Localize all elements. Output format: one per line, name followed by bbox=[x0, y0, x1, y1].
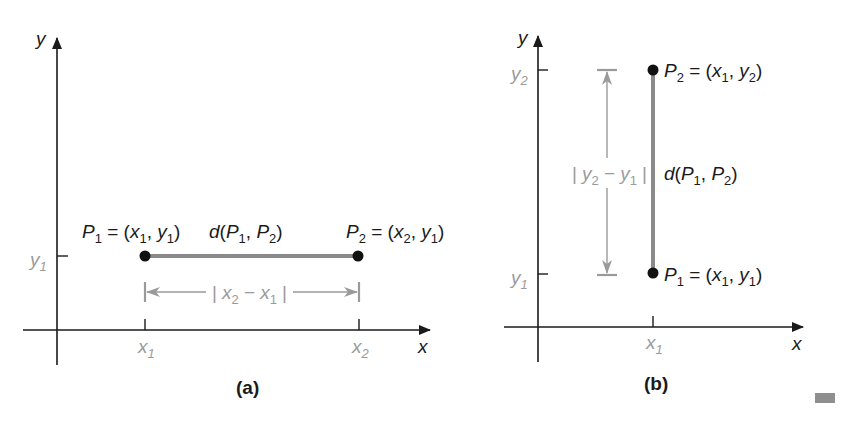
distance-label: d(P1, P2) bbox=[209, 221, 283, 246]
x2-tick-label: x2 bbox=[351, 336, 370, 361]
distance-formula-diagram: y x y1 x1 x2 P1 = (x1, y1) d(P1, P2) P2 … bbox=[0, 0, 843, 431]
y1-tick-label: y1 bbox=[509, 267, 528, 292]
point-p1 bbox=[648, 268, 659, 279]
panel-a-caption: (a) bbox=[236, 377, 259, 398]
gray-marker-block bbox=[815, 393, 835, 403]
y-difference-label: |y2 − y1| bbox=[572, 163, 647, 188]
y-axis-label: y bbox=[516, 27, 529, 48]
point-p2 bbox=[353, 251, 364, 262]
x-axis-label: x bbox=[791, 333, 803, 354]
x1-tick-label: x1 bbox=[137, 336, 155, 361]
vertical-dimension: |y2 − y1| bbox=[572, 70, 647, 275]
point-p1 bbox=[140, 251, 151, 262]
point-p2 bbox=[648, 65, 659, 76]
x1-tick-label: x1 bbox=[645, 332, 663, 357]
p2-label: P2 = (x1, y2) bbox=[664, 60, 762, 85]
distance-label: d(P1, P2) bbox=[664, 163, 738, 188]
panel-b-caption: (b) bbox=[644, 373, 668, 394]
panel-a: y x y1 x1 x2 P1 = (x1, y1) d(P1, P2) P2 … bbox=[23, 28, 444, 398]
x-difference-label: |x2 − x1| bbox=[212, 282, 287, 307]
y1-tick-label: y1 bbox=[28, 249, 47, 274]
panel-b: y x y2 y1 x1 P2 = (x1, y2) d(P1, P2) P1 … bbox=[504, 27, 803, 394]
y-axis-label: y bbox=[34, 28, 47, 49]
horizontal-dimension: |x2 − x1| bbox=[145, 282, 359, 307]
p1-label: P1 = (x1, y1) bbox=[82, 221, 180, 246]
p2-label: P2 = (x2, y1) bbox=[346, 221, 444, 246]
y2-tick-label: y2 bbox=[509, 63, 529, 88]
x-axis-label: x bbox=[417, 336, 429, 357]
p1-label: P1 = (x1, y1) bbox=[664, 264, 762, 289]
